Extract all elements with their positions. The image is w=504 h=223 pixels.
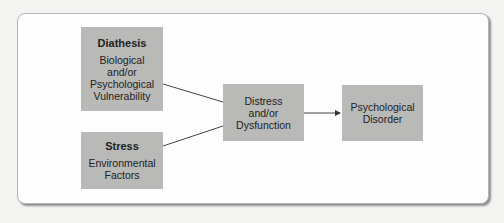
node-body: Environmental Factors — [88, 157, 155, 181]
edge-diathesis-distress — [163, 84, 223, 102]
node-body: Biological and/or Psychological Vulnerab… — [90, 54, 154, 102]
node-title: Stress — [105, 140, 139, 152]
node-disorder: Psychological Disorder — [342, 85, 423, 141]
node-stress: Stress Environmental Factors — [81, 132, 163, 189]
node-body: Psychological Disorder — [350, 101, 414, 125]
node-diathesis: Diathesis Biological and/or Psychologica… — [81, 27, 163, 111]
node-body: Distress and/or Dysfunction — [236, 95, 291, 131]
edge-stress-distress — [163, 126, 223, 146]
node-distress: Distress and/or Dysfunction — [223, 84, 304, 141]
node-title: Diathesis — [98, 37, 147, 49]
